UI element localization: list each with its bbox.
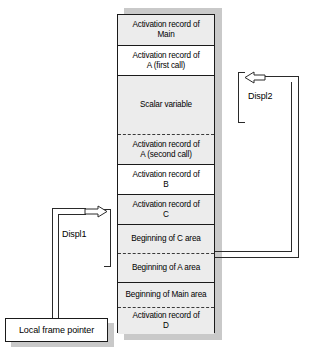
displ2-line-bottom-outer bbox=[215, 257, 299, 258]
displ2-line-right-outer bbox=[298, 76, 299, 258]
stack-row-ar-b: Activation record ofB bbox=[118, 164, 214, 194]
stack-row-ar-d: Activation record ofD bbox=[118, 307, 214, 334]
local-frame-pointer-label: Local frame pointer bbox=[19, 325, 94, 335]
stack-row-begin-a: Beginning of A area bbox=[118, 253, 214, 282]
local-frame-pointer-box: Local frame pointer bbox=[5, 318, 108, 342]
stack-row-label: Activation record ofA (second call) bbox=[119, 140, 213, 159]
stack-row-label: Scalar variable bbox=[119, 100, 213, 110]
displ1-arrowhead-icon bbox=[84, 204, 108, 222]
stack-row-scalar-var: Scalar variable bbox=[118, 75, 214, 134]
stack-row-label: Beginning of Main area bbox=[119, 290, 213, 300]
displ2-label: Displ2 bbox=[248, 91, 272, 101]
stack-row-label: Beginning of C area bbox=[119, 234, 213, 244]
displ1-line-left-outer bbox=[52, 208, 53, 320]
stack-row-label: Activation record ofC bbox=[119, 200, 213, 219]
stack-row-ar-main: Activation record ofMain bbox=[118, 15, 214, 45]
stack-row-ar-a-first: Activation record ofA (first call) bbox=[118, 45, 214, 75]
runtime-stack-column: Activation record ofMainActivation recor… bbox=[117, 14, 215, 333]
displ2-line-bottom-inner bbox=[215, 251, 292, 252]
stack-row-label: Beginning of A area bbox=[119, 263, 213, 273]
displ1-line-top-outer bbox=[52, 208, 86, 209]
displ2-arrowhead-icon bbox=[244, 70, 266, 88]
displ2-line-top bbox=[265, 76, 299, 77]
stack-row-ar-c: Activation record ofC bbox=[118, 194, 214, 224]
stack-row-label: Activation record ofMain bbox=[119, 20, 213, 39]
displ1-line-left-inner bbox=[58, 214, 59, 320]
stack-row-begin-c: Beginning of C area bbox=[118, 224, 214, 253]
stack-row-label: Activation record ofD bbox=[119, 311, 213, 330]
displ1-line-top-inner bbox=[58, 214, 86, 215]
stack-row-begin-main: Beginning of Main area bbox=[118, 282, 214, 307]
stack-row-label: Activation record ofA (first call) bbox=[119, 51, 213, 70]
displ1-label: Displ1 bbox=[62, 229, 86, 239]
displ2-line-right-inner bbox=[291, 82, 292, 251]
stack-row-ar-a-second: Activation record ofA (second call) bbox=[118, 134, 214, 164]
stack-row-label: Activation record ofB bbox=[119, 170, 213, 189]
stack-frame-diagram: Activation record ofMainActivation recor… bbox=[0, 0, 318, 353]
